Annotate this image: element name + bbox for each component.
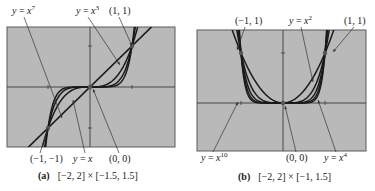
panel-caption: (a)[−2, 2] × [−1.5, 1.5]	[38, 170, 138, 182]
panel-caption: (b)[−2, 2] × [−1, 1.5]	[238, 171, 331, 183]
annotation-label: (1, 1)	[109, 5, 131, 17]
intersection-point	[281, 101, 285, 105]
intersection-point	[88, 85, 92, 89]
annotation-label: (0, 0)	[109, 153, 131, 165]
graph-panel-b	[197, 0, 367, 151]
annotation-label: (−1, 1)	[235, 15, 262, 27]
annotation-label: (−1, −1)	[30, 153, 63, 165]
annotation-label: y = x	[72, 153, 93, 164]
panel-captions: (a)[−2, 2] × [−1.5, 1.5](b)[−2, 2] × [−1…	[38, 170, 331, 183]
intersection-point	[239, 51, 243, 55]
annotation-label: (1, 1)	[344, 15, 366, 27]
annotation-label: y = x4	[323, 151, 348, 163]
intersection-point	[323, 51, 327, 55]
annotation-label: y = x3	[75, 4, 100, 16]
annotation-label: (0, 0)	[286, 152, 308, 164]
annotation-label: y = x10	[200, 151, 228, 163]
annotation-label: y = x2	[288, 14, 313, 26]
power-function-figure: y = x7y = x3(1, 1)(−1, −1)y = x(0, 0)(−1…	[0, 0, 375, 191]
annotation-label: y = x7	[11, 4, 36, 16]
